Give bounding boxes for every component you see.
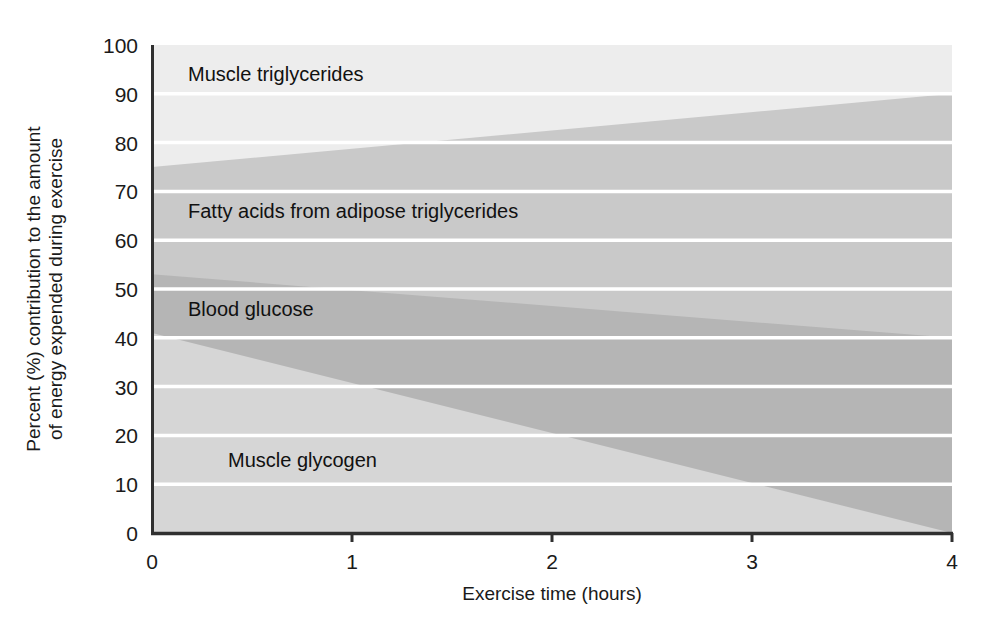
y-tick-label-90: 90 [115,83,138,106]
band-label-blood-glucose: Blood glucose [188,298,314,320]
y-tick-label-70: 70 [115,180,138,203]
x-tick-label-3: 3 [746,550,758,573]
y-axis-tick-labels-group: 0102030405060708090100 [103,34,138,545]
y-axis-title-line-1: Percent (%) contribution to the amount [23,126,44,452]
x-tick-label-4: 4 [946,550,958,573]
y-tick-label-40: 40 [115,327,138,350]
band-label-muscle-glycogen: Muscle glycogen [228,449,377,471]
chart-figure: Muscle glycogenBlood glucoseFatty acids … [0,0,1000,639]
y-tick-label-50: 50 [115,278,138,301]
band-label-fatty-acids-from-adipose-triglycerides: Fatty acids from adipose triglycerides [188,200,518,222]
y-tick-label-60: 60 [115,229,138,252]
y-tick-label-30: 30 [115,376,138,399]
band-label-muscle-triglycerides: Muscle triglycerides [188,63,364,85]
y-axis-title-line-2: of energy expended during exercise [45,138,66,440]
y-tick-label-100: 100 [103,34,138,57]
y-tick-label-80: 80 [115,132,138,155]
x-tick-label-2: 2 [546,550,558,573]
x-tick-label-1: 1 [346,550,358,573]
x-axis-title: Exercise time (hours) [462,583,642,604]
x-tick-label-0: 0 [146,550,158,573]
stacked-area-chart: Muscle glycogenBlood glucoseFatty acids … [0,0,1000,639]
x-axis-tick-labels-group: 01234 [146,550,958,573]
y-tick-label-0: 0 [126,522,138,545]
y-tick-label-10: 10 [115,473,138,496]
y-tick-label-20: 20 [115,424,138,447]
